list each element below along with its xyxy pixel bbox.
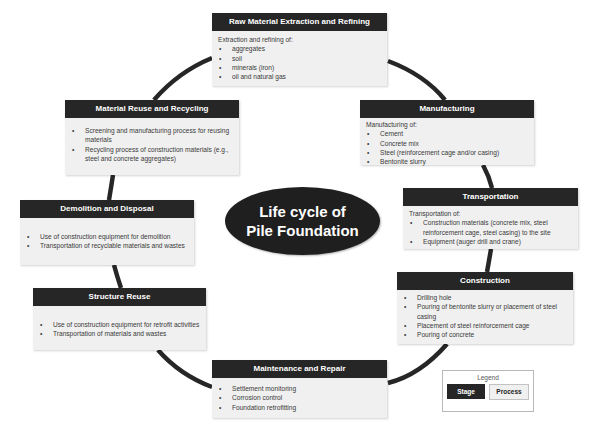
process-item: Recycling process of construction materi… [71, 145, 234, 164]
stage-header: Material Reuse and Recycling [65, 100, 239, 118]
arc-structure-to-demolition [114, 265, 121, 288]
process-item: Settlement monitoring [218, 384, 382, 393]
stage-box-material-reuse: Material Reuse and Recycling Screening a… [65, 100, 239, 175]
process-item: Pouring of concrete [403, 330, 568, 339]
process-item: Cement [366, 129, 529, 138]
process-item: Pouring of bentonite slurry or placement… [403, 302, 568, 321]
process-item: soil [218, 54, 382, 63]
center-title-line1: Life cycle of [259, 202, 346, 221]
process-item: Steel (reinforcement cage and/or casing) [366, 148, 529, 157]
stage-box-maintenance: Maintenance and Repair Settlement monito… [212, 360, 387, 418]
legend: Legend Stage Process [442, 370, 534, 412]
legend-stage-swatch: Stage [447, 384, 485, 399]
arc-maintenance-to-structure [158, 350, 212, 387]
process-item: Transportation of recyclable materials a… [26, 241, 189, 250]
process-item: Placement of steel reinforcement cage [403, 321, 568, 330]
arc-raw-to-manufacturing [388, 61, 445, 100]
stage-box-structure-reuse: Structure Reuse Use of construction equi… [33, 288, 206, 350]
stage-header: Maintenance and Repair [212, 360, 387, 378]
process-item: oil and natural gas [218, 72, 382, 81]
stage-box-transportation: Transportation Transportation of: Constr… [403, 188, 578, 249]
arc-transportation-to-construction [487, 249, 491, 272]
process-item: Concrete mix [366, 139, 529, 148]
arc-construction-to-maintenance [388, 344, 447, 383]
process-item: Screening and manufacturing process for … [71, 126, 234, 145]
process-item: Corrosion control [218, 393, 382, 402]
stage-box-construction: Construction Drilling hole Pouring of be… [397, 272, 573, 344]
stage-intro: Manufacturing of: [366, 120, 529, 129]
process-item: Construction materials (concrete mix, st… [409, 218, 573, 237]
legend-process-swatch: Process [489, 384, 529, 400]
stage-box-raw-material: Raw Material Extraction and Refining Ext… [212, 13, 387, 86]
process-item: Transportation of materials and wastes [39, 329, 201, 338]
stage-box-manufacturing: Manufacturing Manufacturing of: Cement C… [360, 100, 534, 165]
legend-title: Legend [443, 374, 533, 381]
stage-header: Raw Material Extraction and Refining [212, 13, 387, 31]
stage-header: Demolition and Disposal [20, 200, 194, 218]
process-item: Foundation retrofitting [218, 403, 382, 412]
center-title-line2: Pile Foundation [246, 221, 359, 240]
process-item: Drilling hole [403, 293, 568, 302]
process-item: Use of construction equipment for demoli… [26, 232, 189, 241]
stage-header: Construction [397, 272, 573, 290]
process-item: Equipment (auger drill and crane) [409, 237, 573, 246]
process-item: Use of construction equipment for retrof… [39, 320, 201, 329]
stage-header: Structure Reuse [33, 288, 206, 306]
arc-demolition-to-material [109, 175, 113, 200]
stage-intro: Extraction and refining of: [218, 35, 382, 44]
center-title-ellipse: Life cycle of Pile Foundation [225, 187, 380, 255]
stage-header: Manufacturing [360, 100, 534, 118]
arc-material-to-raw [154, 58, 212, 100]
stage-intro: Transportation of: [409, 209, 573, 218]
stage-header: Transportation [403, 188, 578, 206]
process-item: minerals (iron) [218, 63, 382, 72]
process-item: aggregates [218, 44, 382, 53]
process-item: Bentonite slurry [366, 157, 529, 166]
stage-box-demolition: Demolition and Disposal Use of construct… [20, 200, 194, 265]
